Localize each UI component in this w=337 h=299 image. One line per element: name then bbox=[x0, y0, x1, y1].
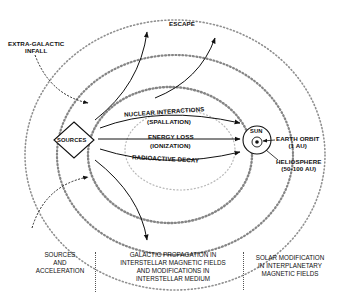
footer-divider-2 bbox=[243, 252, 244, 290]
footer-col3-line: SOLAR MODIFICATION bbox=[248, 254, 332, 262]
footer-solar: SOLAR MODIFICATION IN INTERPLANETARY MAG… bbox=[248, 254, 332, 278]
footer-col2-line: INTERSTELLAR MEDIUM bbox=[103, 275, 243, 283]
spallation-label: (SPALLATION) bbox=[147, 118, 191, 125]
footer-col3-line: IN INTERPLANETARY bbox=[248, 262, 332, 270]
energy-loss-label: ENERGY LOSS bbox=[148, 133, 194, 140]
footer-sources: SOURCES AND ACCELERATION bbox=[25, 251, 95, 275]
footer-col2-line: GALACTIC PROPAGATION IN bbox=[103, 251, 243, 259]
infall-arrow-bottom bbox=[32, 177, 88, 228]
earth-orbit-sub: (1 AU) bbox=[276, 142, 319, 149]
footer-col1-line: SOURCES bbox=[25, 251, 95, 259]
footer-col3-line: MAGNETIC FIELDS bbox=[248, 270, 332, 278]
footer-divider-1 bbox=[95, 252, 96, 292]
heliosphere-label: HELIOSPHERE (50-100 AU) bbox=[276, 158, 321, 172]
extra-galactic-label: EXTRA-GALACTIC INFALL bbox=[8, 40, 64, 54]
escape-arrow-down bbox=[95, 160, 147, 240]
footer-col2-line: AND MODIFICATIONS IN bbox=[103, 267, 243, 275]
footer-col2-line: INTERSTELLAR MAGNETIC FIELDS bbox=[103, 259, 243, 267]
ionization-label: (IONIZATION) bbox=[150, 142, 191, 149]
sun-label: SUN bbox=[250, 128, 263, 135]
footer-galactic: GALACTIC PROPAGATION IN INTERSTELLAR MAG… bbox=[103, 251, 243, 283]
footer-col1-line: ACCELERATION bbox=[25, 267, 95, 275]
footer-col1-line: AND bbox=[25, 259, 95, 267]
extra-galactic-line1: EXTRA-GALACTIC bbox=[8, 40, 64, 47]
earth-orbit-text: EARTH ORBIT bbox=[276, 135, 319, 142]
extra-galactic-line2: INFALL bbox=[8, 47, 64, 54]
sun-dot bbox=[255, 140, 259, 144]
earth-orbit-label: EARTH ORBIT (1 AU) bbox=[276, 135, 319, 149]
escape-label: ESCAPE bbox=[169, 20, 195, 27]
heliosphere-text: HELIOSPHERE bbox=[276, 158, 321, 165]
sources-label: SOURCES bbox=[57, 137, 86, 144]
heliosphere-sub: (50-100 AU) bbox=[276, 165, 321, 172]
